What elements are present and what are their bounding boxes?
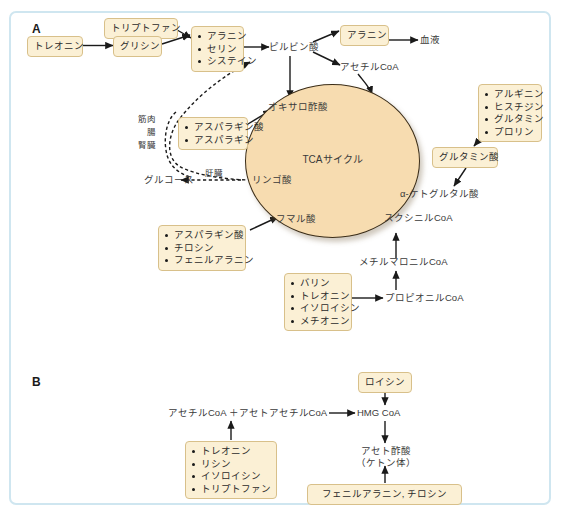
box-thr-lys-ile-trp-list: トレオニン リシン イソロイシン トリプトファン bbox=[192, 445, 270, 495]
panel-b-letter: B bbox=[32, 375, 41, 389]
list-item: アスパラギン bbox=[185, 134, 241, 147]
box-glycine[interactable]: グリシン bbox=[113, 36, 162, 57]
list-item: トレオニン bbox=[192, 445, 270, 458]
box-threonine[interactable]: トレオニン bbox=[27, 36, 83, 57]
box-alanine[interactable]: アラニン bbox=[340, 25, 389, 46]
box-arg-his-gln-pro[interactable]: アルギニン ヒスチジン グルタミン プロリン bbox=[478, 84, 542, 142]
list-item: バリン bbox=[291, 277, 345, 290]
list-item: チロシン bbox=[165, 242, 239, 255]
label-propionyl-coa: プロピオニルCoA bbox=[385, 292, 463, 304]
box-ala-ser-cys-list: アラニン セリン システイン bbox=[198, 30, 237, 68]
list-item: トリプトファン bbox=[192, 483, 270, 496]
box-asp-tyr-phe[interactable]: アスパラギン酸 チロシン フェニルアラニン bbox=[158, 225, 246, 271]
list-item: アラニン bbox=[198, 30, 237, 43]
list-item: グルタミン bbox=[485, 113, 535, 126]
box-phe-tyr-label: フェニルアラニン, チロシン bbox=[322, 488, 447, 499]
label-tissue-intestine: 腸 bbox=[147, 126, 156, 138]
label-tissue-kidney: 腎臓 bbox=[138, 139, 156, 151]
label-acetoacetate-line2: （ケトン体） bbox=[350, 457, 422, 469]
label-succinyl-coa: スクシニルCoA bbox=[384, 212, 452, 224]
list-item: セリン bbox=[198, 43, 237, 56]
label-liver: 肝臓 bbox=[205, 167, 223, 179]
list-item: アスパラギン酸 bbox=[185, 121, 241, 134]
label-blood: 血液 bbox=[420, 34, 440, 46]
label-malate: リンゴ酸 bbox=[252, 174, 292, 186]
tca-cycle-label: TCAサイクル bbox=[246, 151, 419, 166]
list-item: トレオニン bbox=[291, 290, 345, 303]
box-asp-asn-list: アスパラギン酸 アスパラギン bbox=[185, 121, 241, 146]
label-alpha-ketoglutarate: α-ケトグルタル酸 bbox=[400, 188, 479, 200]
label-acetyl-acetoacetyl-coa: アセチルCoA ＋アセトアセチルCoA bbox=[168, 407, 327, 419]
box-alanine-label: アラニン bbox=[347, 29, 387, 40]
box-leucine-label: ロイシン bbox=[365, 376, 405, 387]
box-asp-asn[interactable]: アスパラギン酸 アスパラギン bbox=[178, 117, 248, 150]
figure-canvas: A トレオニン トリプトファン グリシン アラニン セリン システイン ピルビン… bbox=[0, 0, 563, 525]
label-pyruvate: ピルビン酸 bbox=[269, 41, 319, 53]
label-acetoacetate-line1: アセト酢酸 bbox=[350, 445, 422, 457]
label-tissue-muscle: 筋肉 bbox=[138, 113, 156, 125]
list-item: ヒスチジン bbox=[485, 101, 535, 114]
box-threonine-label: トレオニン bbox=[34, 40, 84, 51]
box-val-thr-ile-met-list: バリン トレオニン イソロイシン メチオニン bbox=[291, 277, 345, 327]
box-glutamate[interactable]: グルタミン酸 bbox=[432, 147, 498, 168]
list-item: イソロイシン bbox=[291, 302, 345, 315]
label-oxaloacetate: オキサロ酢酸 bbox=[268, 101, 328, 113]
box-asp-tyr-phe-list: アスパラギン酸 チロシン フェニルアラニン bbox=[165, 229, 239, 267]
label-hmg-coa: HMG CoA bbox=[357, 407, 400, 419]
box-thr-lys-ile-trp[interactable]: トレオニン リシン イソロイシン トリプトファン bbox=[185, 441, 277, 499]
list-item: アスパラギン酸 bbox=[165, 229, 239, 242]
box-tryptophan-label: トリプトファン bbox=[111, 22, 181, 33]
list-item: プロリン bbox=[485, 126, 535, 139]
box-leucine[interactable]: ロイシン bbox=[358, 372, 412, 393]
list-item: イソロイシン bbox=[192, 470, 270, 483]
box-ala-ser-cys[interactable]: アラニン セリン システイン bbox=[191, 26, 244, 72]
panel-a-letter: A bbox=[32, 22, 41, 36]
box-val-thr-ile-met[interactable]: バリン トレオニン イソロイシン メチオニン bbox=[284, 273, 352, 331]
label-methylmalonyl-coa: メチルマロニルCoA bbox=[359, 256, 447, 268]
label-glucose: グルコース bbox=[144, 174, 194, 186]
list-item: メチオニン bbox=[291, 315, 345, 328]
figure-frame bbox=[9, 11, 551, 505]
list-item: アルギニン bbox=[485, 88, 535, 101]
box-arg-his-gln-pro-list: アルギニン ヒスチジン グルタミン プロリン bbox=[485, 88, 535, 138]
box-phe-tyr[interactable]: フェニルアラニン, チロシン bbox=[307, 484, 462, 505]
box-glutamate-label: グルタミン酸 bbox=[439, 151, 499, 162]
box-glycine-label: グリシン bbox=[120, 40, 160, 51]
list-item: フェニルアラニン bbox=[165, 254, 239, 267]
label-acetyl-coa: アセチルCoA bbox=[340, 61, 398, 73]
label-fumarate: フマル酸 bbox=[276, 213, 316, 225]
list-item: リシン bbox=[192, 458, 270, 471]
list-item: システイン bbox=[198, 55, 237, 68]
